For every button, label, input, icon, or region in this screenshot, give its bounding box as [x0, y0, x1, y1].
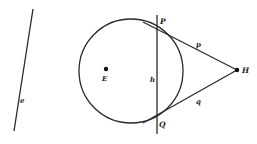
label-h: h: [150, 75, 155, 84]
label-Q: Q: [159, 120, 166, 129]
label-H: H: [241, 66, 250, 75]
label-q: q: [196, 97, 201, 106]
line-e: [14, 9, 33, 131]
label-P: P: [159, 17, 166, 26]
point-E: [104, 67, 108, 71]
label-e: e: [20, 96, 25, 105]
label-E: E: [101, 74, 108, 83]
point-H: [235, 68, 239, 72]
geometry-diagram: e E h p q P Q H: [0, 0, 257, 144]
label-p: p: [196, 40, 201, 49]
